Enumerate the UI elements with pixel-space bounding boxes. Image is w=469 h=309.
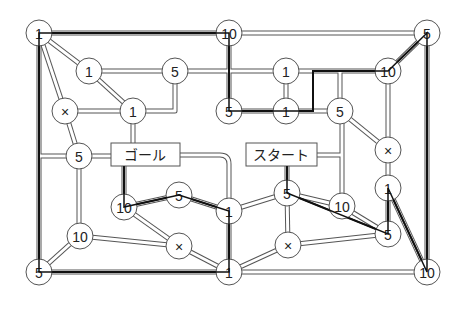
node-M-blocked: × <box>375 137 401 163</box>
svg-text:×: × <box>284 238 292 254</box>
node-V-blocked: × <box>166 233 192 259</box>
node-I: 1 <box>120 98 146 124</box>
svg-text:10: 10 <box>72 229 88 245</box>
node-U: 10 <box>67 223 93 249</box>
diagram-canvas: ゴール スタート 1 10 5 1 5 1 10 × 1 5 1 5 × 5 1… <box>0 0 469 309</box>
node-E: 5 <box>162 58 188 84</box>
node-D: 1 <box>76 58 102 84</box>
svg-text:1: 1 <box>85 64 93 80</box>
svg-text:5: 5 <box>75 149 83 165</box>
svg-text:1: 1 <box>282 64 290 80</box>
node-L: 5 <box>327 98 353 124</box>
svg-text:5: 5 <box>336 104 344 120</box>
svg-text:5: 5 <box>171 64 179 80</box>
svg-text:1: 1 <box>282 104 290 120</box>
node-N: 5 <box>66 143 92 169</box>
svg-text:1: 1 <box>129 104 137 120</box>
svg-text:ゴール: ゴール <box>124 147 166 163</box>
node-W-blocked: × <box>275 232 301 258</box>
route-puzzle-diagram: ゴール スタート 1 10 5 1 5 1 10 × 1 5 1 5 × 5 1… <box>0 0 469 309</box>
node-F: 1 <box>273 58 299 84</box>
start-label: スタート <box>246 143 317 166</box>
svg-text:スタート: スタート <box>253 147 309 163</box>
svg-text:×: × <box>175 239 183 255</box>
goal-label: ゴール <box>111 143 180 166</box>
node-H-blocked: × <box>52 98 78 124</box>
svg-text:×: × <box>61 104 69 120</box>
svg-text:×: × <box>384 143 392 159</box>
